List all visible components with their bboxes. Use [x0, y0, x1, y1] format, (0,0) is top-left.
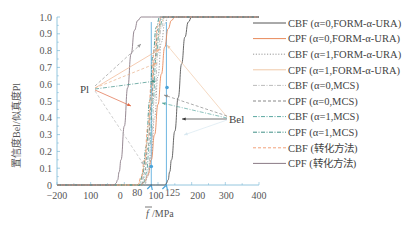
legend-item: CBF (α=0,MCS) [253, 80, 359, 92]
legend-item: CPF (α=0,FORM-α-URA) [253, 33, 401, 45]
pl-annotation: Pl [80, 83, 89, 95]
legend-label: CBF (α=0,FORM-α-URA) [288, 18, 402, 30]
legend-item: CPF (α=0,MCS) [253, 96, 358, 108]
legend-label: CPF (α=1,FORM-α-URA) [288, 65, 401, 77]
x-axis-label-unit: /MPa [152, 208, 174, 219]
legend-label: CBF (α=1,MCS) [288, 111, 359, 123]
bel-annotation: Bel [229, 113, 244, 125]
y-tick-label: 0.9 [40, 28, 53, 39]
legend-label: CPF (α=0,MCS) [288, 96, 358, 108]
curves [57, 17, 259, 185]
annotation-arrows [95, 44, 227, 168]
x-tick-label: 400 [252, 190, 267, 201]
y-tick-label: 0.3 [40, 129, 53, 140]
y-tick-label: 0.4 [40, 112, 53, 123]
x-tick-label: 80 [132, 187, 142, 198]
y-axis-label: 置信度Bel/似真度Pl [10, 83, 22, 168]
y-tick-label: 0.6 [40, 79, 53, 90]
legend-label: CPF (α=0,FORM-α-URA) [288, 33, 401, 45]
legend-label: CBF (转化方法) [288, 142, 358, 155]
legend-item: CBF (α=0,FORM-α-URA) [253, 18, 402, 30]
y-tick-label: 0.1 [40, 163, 53, 174]
legend-item: CBF (α=1,FORM-α-URA) [253, 49, 402, 61]
legend-item: CBF (转化方法) [253, 142, 358, 155]
x-tick-label: 300 [219, 190, 234, 201]
x-tick-label: 100 [83, 190, 98, 201]
legend-item: CPF (α=1,MCS) [253, 127, 358, 139]
y-tick-label: 0 [47, 180, 52, 191]
series-curve [57, 17, 259, 185]
y-tick-label: 1.0 [40, 12, 53, 23]
y-tick-label: 0.8 [40, 45, 53, 56]
legend-item: CPF (α=1,FORM-α-URA) [253, 65, 401, 77]
x-tick-label: 100 [149, 190, 164, 201]
x-tick-label: 0 [118, 190, 123, 201]
axes: 00.10.20.30.40.50.60.70.80.91.0−20010008… [40, 12, 267, 202]
x-tick-label: 200 [190, 190, 205, 201]
y-tick-label: 0.5 [40, 96, 53, 107]
y-tick-label: 0.7 [40, 62, 53, 73]
legend-item: CPF (转化方法) [253, 157, 357, 170]
y-tick-label: 0.2 [40, 146, 53, 157]
legend-label: CPF (转化方法) [288, 157, 357, 170]
cdf-chart: 00.10.20.30.40.50.60.70.80.91.0−20010008… [0, 0, 416, 235]
legend: CBF (α=0,FORM-α-URA)CPF (α=0,FORM-α-URA)… [253, 18, 402, 170]
x-axis-label-symbol: f [146, 208, 150, 219]
legend-label: CBF (α=0,MCS) [288, 80, 359, 92]
legend-label: CBF (α=1,FORM-α-URA) [288, 49, 402, 61]
legend-item: CBF (α=1,MCS) [253, 111, 359, 123]
x-tick-label: −200 [47, 190, 68, 201]
x-axis-label: f /MPa [145, 207, 174, 219]
legend-label: CPF (α=1,MCS) [288, 127, 358, 139]
